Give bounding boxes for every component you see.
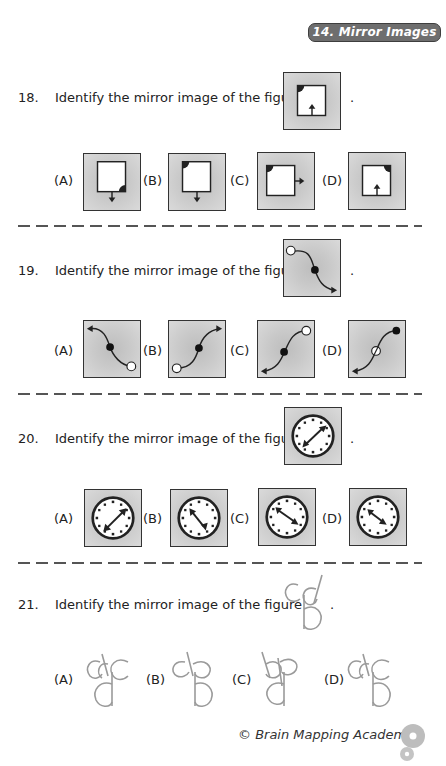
option-label: (D) xyxy=(322,173,342,188)
option-label: (D) xyxy=(324,672,344,687)
academy-logo xyxy=(397,722,427,766)
question-figure xyxy=(283,72,341,130)
option-label: (C) xyxy=(230,511,249,526)
option-label: (A) xyxy=(54,511,73,526)
section-divider xyxy=(18,225,422,227)
section-divider xyxy=(18,393,422,395)
clock-figure-icon xyxy=(350,489,406,545)
option-b-figure[interactable] xyxy=(168,153,226,211)
option-d-figure[interactable] xyxy=(348,152,406,210)
s-curve-dots-figure-icon xyxy=(349,321,405,377)
option-a-figure[interactable] xyxy=(83,153,141,211)
option-c-figure[interactable] xyxy=(258,488,316,546)
option-c-figure[interactable] xyxy=(257,152,315,210)
question-prompt: Identify the mirror image of the figure xyxy=(55,597,302,612)
option-label: (A) xyxy=(54,173,73,188)
clock-figure-icon xyxy=(171,490,227,546)
disc-logo-icon xyxy=(397,722,427,766)
option-label: (B) xyxy=(146,672,165,687)
option-d-figure[interactable] xyxy=(349,488,407,546)
option-label: (C) xyxy=(232,672,251,687)
option-d-figure[interactable] xyxy=(345,650,405,708)
option-a-figure[interactable] xyxy=(83,320,141,378)
s-curve-dots-figure-icon xyxy=(284,240,340,296)
letters-figure-icon xyxy=(280,573,332,631)
option-d-figure[interactable] xyxy=(348,320,406,378)
question-number: 20. xyxy=(18,431,39,446)
letters-figure-icon xyxy=(254,648,314,706)
letters-figure-icon xyxy=(167,650,227,708)
option-label: (D) xyxy=(322,511,342,526)
s-curve-dots-figure-icon xyxy=(169,321,225,377)
option-b-figure[interactable] xyxy=(167,650,227,708)
letters-figure-icon xyxy=(84,650,144,708)
option-a-figure[interactable] xyxy=(84,489,142,547)
option-c-figure[interactable] xyxy=(257,320,315,378)
question-number: 19. xyxy=(18,263,39,278)
question-figure xyxy=(280,573,332,631)
question-prompt: Identify the mirror image of the figure xyxy=(55,90,302,105)
letters-figure-icon xyxy=(345,650,405,708)
s-curve-dots-figure-icon xyxy=(258,321,314,377)
option-label: (B) xyxy=(143,173,162,188)
question-prompt: Identify the mirror image of the figure xyxy=(55,431,302,446)
option-label: (D) xyxy=(322,343,342,358)
section-divider xyxy=(18,562,422,564)
square-arrow-figure-icon xyxy=(169,154,225,210)
option-b-figure[interactable] xyxy=(168,320,226,378)
square-arrow-figure-icon xyxy=(349,153,405,209)
chapter-tag: 14. Mirror Images xyxy=(308,23,441,42)
option-label: (A) xyxy=(54,672,73,687)
option-b-figure[interactable] xyxy=(170,489,228,547)
question-number: 18. xyxy=(18,90,39,105)
square-arrow-figure-icon xyxy=(84,154,140,210)
option-a-figure[interactable] xyxy=(84,650,144,708)
question-prompt: Identify the mirror image of the figure xyxy=(55,263,302,278)
option-label: (C) xyxy=(230,343,249,358)
option-label: (C) xyxy=(230,173,249,188)
option-label: (B) xyxy=(143,511,162,526)
clock-figure-icon xyxy=(285,408,341,464)
square-arrow-figure-icon xyxy=(258,153,314,209)
option-c-figure[interactable] xyxy=(254,648,314,706)
option-label: (B) xyxy=(143,343,162,358)
option-label: (A) xyxy=(54,343,73,358)
copyright-text: © Brain Mapping Academy xyxy=(238,727,414,742)
question-figure xyxy=(284,407,342,465)
square-arrow-figure-icon xyxy=(284,73,340,129)
clock-figure-icon xyxy=(259,489,315,545)
question-figure xyxy=(283,239,341,297)
question-number: 21. xyxy=(18,597,39,612)
s-curve-dots-figure-icon xyxy=(84,321,140,377)
clock-figure-icon xyxy=(85,490,141,546)
